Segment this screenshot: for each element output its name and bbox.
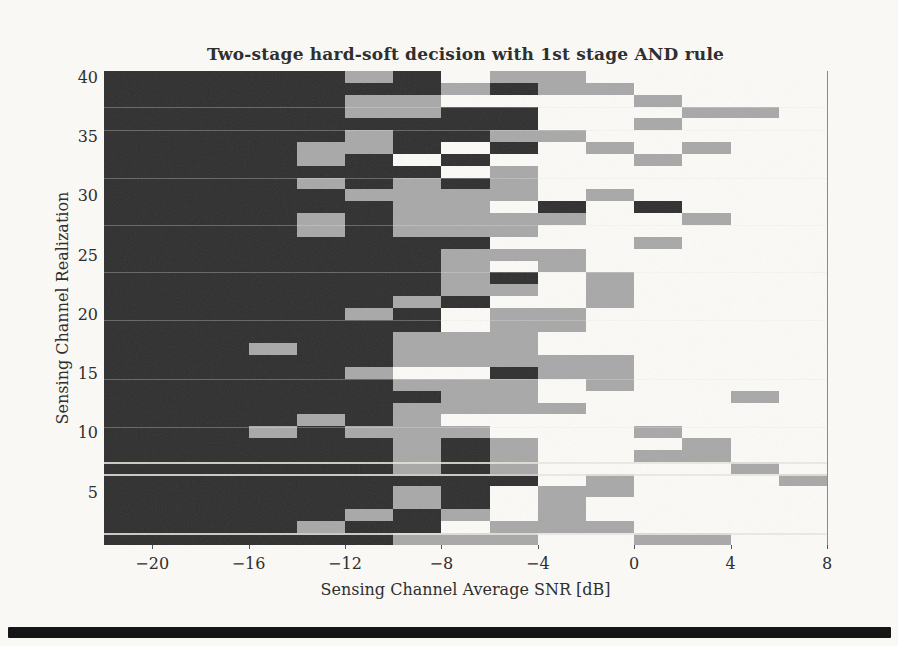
heatmap-cell <box>779 462 827 474</box>
heatmap-cell <box>538 521 586 533</box>
heatmap-cell <box>104 107 152 119</box>
heatmap-row <box>104 426 827 438</box>
heatmap-cell <box>249 154 297 166</box>
heatmap-cell <box>345 450 393 462</box>
heatmap-cell <box>731 320 779 332</box>
heatmap-cell <box>634 95 682 107</box>
heatmap-cell <box>731 154 779 166</box>
heatmap-cell <box>731 83 779 95</box>
heatmap-cell <box>490 237 538 249</box>
heatmap-cell <box>538 142 586 154</box>
heatmap-cell <box>249 438 297 450</box>
heatmap-cell <box>586 474 634 486</box>
x-tick-label: −12 <box>328 554 362 573</box>
heatmap-cell <box>586 343 634 355</box>
heatmap-cell <box>200 414 248 426</box>
heatmap-row <box>104 343 827 355</box>
heatmap-cell <box>731 438 779 450</box>
heatmap-cell <box>682 521 730 533</box>
heatmap-cell <box>104 261 152 273</box>
heatmap-cell <box>731 521 779 533</box>
heatmap-cell <box>152 308 200 320</box>
heatmap-cell <box>104 249 152 261</box>
heatmap-cell <box>297 154 345 166</box>
heatmap-cell <box>731 213 779 225</box>
heatmap-cell <box>682 166 730 178</box>
heatmap-cell <box>731 414 779 426</box>
heatmap-cell <box>634 308 682 320</box>
heatmap-cell <box>393 533 441 545</box>
heatmap-cell <box>538 438 586 450</box>
heatmap-cell <box>104 379 152 391</box>
heatmap-cell <box>152 379 200 391</box>
heatmap-cell <box>682 261 730 273</box>
heatmap-cell <box>731 201 779 213</box>
heatmap-cell <box>441 486 489 498</box>
book-page: Two-stage hard-soft decision with 1st st… <box>0 0 898 646</box>
heatmap-cell <box>490 107 538 119</box>
heatmap-cell <box>634 462 682 474</box>
x-tick-label: −8 <box>430 554 454 573</box>
x-tick-mark <box>731 545 732 549</box>
heatmap-cell <box>682 367 730 379</box>
heatmap-cell <box>297 355 345 367</box>
heatmap-cell <box>731 95 779 107</box>
heatmap-cell <box>345 332 393 344</box>
heatmap-cell <box>634 486 682 498</box>
heatmap-cell <box>104 213 152 225</box>
heatmap-cell <box>249 509 297 521</box>
heatmap-cell <box>634 166 682 178</box>
heatmap-cell <box>104 486 152 498</box>
heatmap-cell <box>104 462 152 474</box>
heatmap-cell <box>104 284 152 296</box>
heatmap-row <box>104 332 827 344</box>
heatmap-cell <box>249 272 297 284</box>
heatmap-cell <box>441 332 489 344</box>
heatmap-cell <box>104 367 152 379</box>
heatmap-cell <box>152 83 200 95</box>
heatmap-cell <box>297 521 345 533</box>
heatmap-cell <box>345 130 393 142</box>
heatmap-cell <box>104 474 152 486</box>
heatmap-cell <box>538 272 586 284</box>
heatmap-cell <box>297 225 345 237</box>
heatmap-cell <box>200 497 248 509</box>
heatmap-cell <box>779 142 827 154</box>
heatmap-cell <box>104 95 152 107</box>
heatmap-cell <box>731 509 779 521</box>
heatmap-cell <box>200 521 248 533</box>
heatmap-cell <box>441 403 489 415</box>
heatmap-cell <box>634 130 682 142</box>
heatmap-cell <box>345 201 393 213</box>
heatmap-cell <box>200 107 248 119</box>
heatmap-cell <box>393 379 441 391</box>
heatmap-cell <box>297 237 345 249</box>
heatmap-cell <box>393 83 441 95</box>
heatmap-cell <box>441 154 489 166</box>
heatmap-cell <box>586 249 634 261</box>
heatmap-cell <box>441 462 489 474</box>
heatmap-cell <box>104 308 152 320</box>
heatmap-cell <box>538 355 586 367</box>
heatmap-cell <box>586 332 634 344</box>
heatmap-cell <box>152 130 200 142</box>
heatmap-cell <box>441 249 489 261</box>
heatmap-cell <box>538 450 586 462</box>
heatmap-cell <box>393 403 441 415</box>
heatmap-cell <box>104 438 152 450</box>
heatmap-cell <box>586 379 634 391</box>
heatmap-cell <box>731 118 779 130</box>
heatmap-cell <box>538 178 586 190</box>
heatmap-cell <box>345 403 393 415</box>
heatmap-cell <box>104 332 152 344</box>
heatmap-cell <box>200 284 248 296</box>
heatmap-cell <box>393 343 441 355</box>
heatmap-cell <box>441 438 489 450</box>
heatmap-cell <box>490 343 538 355</box>
heatmap-cell <box>393 272 441 284</box>
heatmap-cell <box>490 296 538 308</box>
heatmap-cell <box>345 296 393 308</box>
heatmap-cell <box>152 225 200 237</box>
heatmap-cell <box>249 71 297 83</box>
heatmap-cell <box>200 403 248 415</box>
